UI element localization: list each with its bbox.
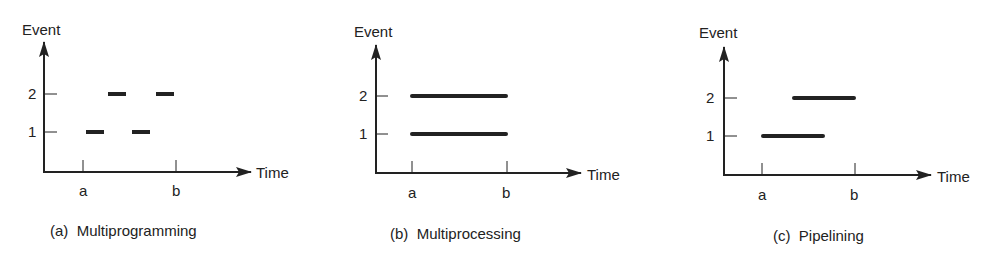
panel-a-multiprogramming: Event Time 2 1 a b (a) Multiprogramming: [22, 21, 289, 239]
y-tick-label-2: 2: [359, 87, 367, 104]
y-axis-label: Event: [699, 24, 738, 41]
x-axis-label: Time: [937, 168, 970, 185]
figure: Event Time 2 1 a b (a) Multiprogramming …: [0, 0, 1003, 259]
x-tick-label-a: a: [79, 182, 88, 199]
panel-c-pipelining: Event Time 2 1 a b (c) Pipelining: [699, 24, 970, 244]
y-axis-label: Event: [22, 21, 61, 38]
caption: (b) Multiprocessing: [390, 225, 521, 242]
x-tick-label-a: a: [758, 186, 767, 203]
x-axis-label: Time: [256, 164, 289, 181]
caption: (c) Pipelining: [773, 227, 864, 244]
caption: (a) Multiprogramming: [50, 222, 197, 239]
x-tick-label-a: a: [408, 184, 417, 201]
y-tick-label-1: 1: [359, 125, 367, 142]
x-tick-label-b: b: [850, 186, 858, 203]
x-tick-label-b: b: [172, 182, 180, 199]
panel-b-multiprocessing: Event Time 2 1 a b (b) Multiprocessing: [354, 23, 620, 242]
y-tick-label-2: 2: [706, 89, 714, 106]
x-tick-label-b: b: [502, 184, 510, 201]
y-tick-label-1: 1: [28, 123, 36, 140]
y-axis-label: Event: [354, 23, 393, 40]
y-tick-label-1: 1: [706, 127, 714, 144]
y-tick-label-2: 2: [28, 85, 36, 102]
x-axis-label: Time: [587, 166, 620, 183]
